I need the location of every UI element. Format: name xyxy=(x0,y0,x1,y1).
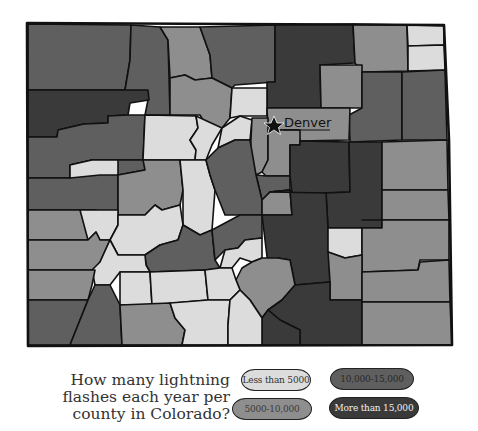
county-mesa-west xyxy=(70,160,118,178)
legend-item-5000-10000: 5000-10,000 xyxy=(232,398,312,420)
county-elbert xyxy=(290,141,350,193)
title-line-1: How many lightning xyxy=(40,372,230,389)
county-mineral xyxy=(150,270,208,305)
county-cheyenne xyxy=(382,190,449,220)
colorado-county-map: Denver xyxy=(0,0,478,360)
title-line-2: flashes each year per xyxy=(40,389,230,406)
county-prowers xyxy=(362,302,452,345)
title-line-3: county in Colorado? xyxy=(40,406,230,423)
county-kit-carson xyxy=(382,140,448,190)
county-sedgwick xyxy=(407,25,444,46)
county-yuma xyxy=(402,70,447,140)
legend-label: Less than 5000 xyxy=(243,375,310,385)
legend-item-less-than-5000: Less than 5000 xyxy=(241,369,311,391)
county-dolores xyxy=(28,270,95,300)
county-moffat xyxy=(28,24,131,90)
legend-item-10000-15000: 10,000-15,000 xyxy=(330,368,414,390)
legend-item-more-than-15000: More than 15,000 xyxy=(329,397,419,419)
legend-label: 5000-10,000 xyxy=(244,404,299,414)
county-boulder xyxy=(230,88,267,118)
county-eagle xyxy=(143,115,198,160)
city-label-denver: Denver xyxy=(284,115,332,130)
county-crowley xyxy=(328,252,362,300)
legend-label: 10,000-15,000 xyxy=(340,374,403,384)
county-hinsdale xyxy=(120,272,152,305)
county-phillips xyxy=(408,45,445,71)
county-morgan-north xyxy=(320,65,362,108)
map-question-title: How many lightning flashes each year per… xyxy=(40,372,230,423)
legend-label: More than 15,000 xyxy=(335,403,414,413)
